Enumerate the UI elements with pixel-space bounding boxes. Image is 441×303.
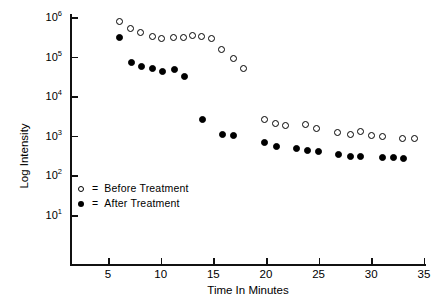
data-point [208,35,215,42]
data-point [127,25,134,32]
legend-label: Before Treatment [104,181,188,196]
x-tick-15 [213,258,215,265]
y-tick-base: 10 [46,130,58,142]
data-point [199,116,206,123]
legend-label: After Treatment [104,196,179,211]
x-tick-25 [319,258,321,265]
x-tick-5 [108,258,110,265]
y-tick-label-3: 103 [0,130,74,142]
data-point [273,143,280,150]
data-point [368,132,375,139]
x-tick-label-10: 10 [154,268,167,280]
data-point [189,32,196,39]
data-point [149,65,156,72]
data-point [181,73,188,80]
data-point [198,33,205,40]
y-tick-label-4: 104 [0,90,74,102]
y-tick-base: 10 [46,11,58,23]
data-point [282,122,289,129]
data-point [158,35,165,42]
data-point [334,129,341,136]
y-tick-label-5: 105 [0,51,74,63]
data-point [159,68,166,75]
data-point [272,120,279,127]
open-circle-icon [78,186,92,192]
x-tick-label-20: 20 [260,268,273,280]
data-point [230,55,237,62]
data-point [138,63,145,70]
data-point [261,116,268,123]
x-tick-20 [266,258,268,265]
y-tick-exponent: 1 [58,207,62,216]
x-tick-label-35: 35 [417,268,430,280]
data-point [379,154,386,161]
data-point [399,135,406,142]
y-tick-label-2: 102 [0,169,74,181]
data-point [379,133,386,140]
filled-circle-icon [78,201,92,207]
legend-item: =After Treatment [78,196,189,211]
data-point [315,148,322,155]
x-tick-35 [424,258,426,265]
data-point [400,155,407,162]
y-axis-title: Log Intensity [18,96,30,216]
data-point [170,34,177,41]
data-point [357,153,364,160]
data-point [149,33,156,40]
y-tick-base: 10 [46,51,58,63]
data-point [137,29,144,36]
data-point [261,139,268,146]
x-tick-30 [371,258,373,265]
data-point [116,34,123,41]
data-point [128,59,135,66]
y-tick-exponent: 6 [58,9,62,18]
data-point [171,66,178,73]
data-point [218,46,225,53]
data-point [293,145,300,152]
x-tick-label-5: 5 [105,268,111,280]
data-point [230,132,237,139]
y-tick-exponent: 3 [58,128,62,137]
y-tick-base: 10 [46,90,58,102]
y-tick-label-1: 101 [0,209,74,221]
data-point [390,154,397,161]
y-tick-exponent: 5 [58,49,62,58]
data-point [411,135,418,142]
data-point [302,121,309,128]
x-tick-label-25: 25 [312,268,325,280]
legend-equals-sign: = [92,196,98,211]
y-tick-exponent: 2 [58,168,62,177]
data-point [240,65,247,72]
y-tick-base: 10 [46,209,58,221]
x-tick-label-15: 15 [207,268,220,280]
y-tick-base: 10 [46,169,58,181]
x-axis-title: Time In Minutes [70,284,426,296]
data-point [313,125,320,132]
legend-item: =Before Treatment [78,181,189,196]
data-point [347,131,354,138]
x-tick-10 [161,258,163,265]
data-point [219,131,226,138]
y-tick-exponent: 4 [58,89,62,98]
y-tick-label-6: 106 [0,11,74,23]
data-point [335,151,342,158]
data-point [304,147,311,154]
chart-figure: 101102103104105106 5101520253035 Log Int… [0,0,441,303]
data-point [347,153,354,160]
legend-equals-sign: = [92,181,98,196]
data-point [357,128,364,135]
x-tick-label-30: 30 [365,268,378,280]
data-point [180,34,187,41]
data-point [116,18,123,25]
legend: =Before Treatment=After Treatment [78,181,189,211]
